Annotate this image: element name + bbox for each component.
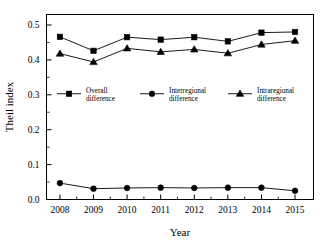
legend-label-line2: difference (86, 95, 115, 103)
y-tick-label: 0.3 (28, 90, 40, 100)
x-tick-label: 2012 (185, 205, 204, 215)
data-point (292, 29, 297, 34)
theil-index-line-chart: 0.00.10.20.30.40.5 200820092010201120122… (0, 0, 328, 242)
x-tick-label: 2008 (50, 205, 69, 215)
legend-marker-square (66, 91, 71, 96)
y-tick-label: 0.4 (28, 55, 40, 65)
data-point (191, 185, 197, 191)
data-point (158, 37, 163, 42)
x-axis-title: Year (170, 226, 191, 238)
y-tick-label: 0.1 (28, 160, 40, 170)
data-point (57, 180, 63, 186)
chart-legend: OveralldifferenceInterregionaldifference… (57, 87, 294, 103)
data-point (259, 185, 265, 191)
x-tick-label: 2010 (118, 205, 137, 215)
x-tick-label: 2009 (84, 205, 103, 215)
data-point (292, 188, 298, 194)
x-tick-label: 2015 (286, 205, 305, 215)
data-point (225, 39, 230, 44)
data-point (225, 185, 231, 191)
data-point (192, 34, 197, 39)
x-tick-label: 2014 (252, 205, 271, 215)
data-point (124, 185, 130, 191)
legend-label-line1: Intraregional (257, 87, 294, 95)
x-tick-label: 2013 (218, 205, 237, 215)
legend-marker-circle (149, 91, 155, 97)
legend-label-line2: difference (169, 95, 198, 103)
data-point (91, 186, 97, 192)
y-axis-title: Theil index (3, 81, 15, 132)
legend-label-line1: Overall (86, 87, 108, 95)
data-point (57, 34, 62, 39)
data-point (259, 30, 264, 35)
x-tick-label: 2011 (151, 205, 170, 215)
legend-label-line2: difference (257, 95, 286, 103)
data-point (91, 48, 96, 53)
chart-figure: 0.00.10.20.30.40.5 200820092010201120122… (0, 0, 328, 242)
y-tick-label: 0.0 (28, 195, 40, 205)
y-tick-label: 0.5 (28, 20, 40, 30)
y-tick-label: 0.2 (28, 125, 40, 135)
data-point (124, 34, 129, 39)
legend-label-line1: Interregional (169, 87, 206, 95)
data-point (158, 185, 164, 191)
